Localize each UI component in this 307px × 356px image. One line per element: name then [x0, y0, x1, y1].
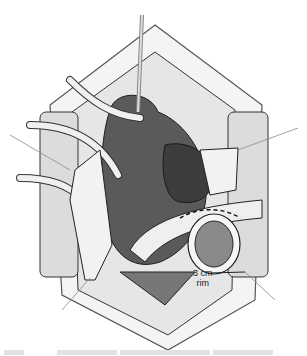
surgical-illustration: 3 cm rim	[0, 0, 307, 356]
illustration-canvas	[0, 0, 307, 356]
caption-blur	[213, 350, 273, 355]
rim-label-line2: rim	[193, 278, 213, 288]
caption-blur	[57, 350, 117, 355]
rim-label: 3 cm rim	[193, 268, 213, 288]
caption-blur	[120, 350, 210, 355]
figure-caption-illegible	[0, 343, 307, 353]
caption-blur	[4, 350, 24, 355]
rim-label-line1: 3 cm	[193, 268, 213, 278]
valve-orifice	[195, 221, 233, 267]
